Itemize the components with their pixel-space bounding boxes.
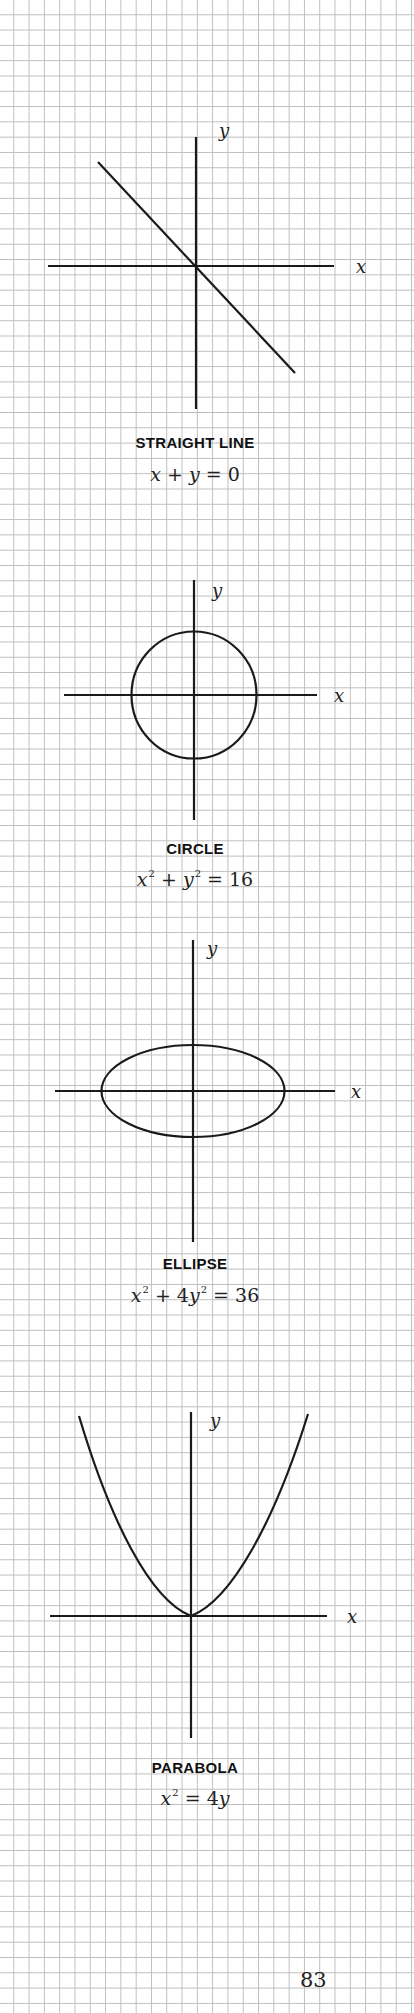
exponent: 2	[201, 1284, 207, 1295]
exponent: 2	[172, 1787, 178, 1798]
coefficient: 4	[207, 1787, 219, 1809]
circle-title: CIRCLE	[0, 840, 390, 857]
x-axis-label: x	[347, 1606, 357, 1627]
parabola-graph: y x	[50, 1410, 357, 1738]
circle-equation: x2 + y2 = 16	[0, 868, 390, 890]
x-axis-label: x	[356, 256, 366, 277]
var-x: x	[131, 1284, 142, 1306]
x-axis-label: x	[334, 685, 344, 706]
straight-line-graph: y x	[48, 120, 366, 409]
var-y: y	[183, 868, 194, 890]
var-y: y	[189, 463, 200, 485]
var-y: y	[189, 1284, 200, 1306]
page-number: 83	[300, 1968, 327, 1992]
ellipse-title: ELLIPSE	[0, 1255, 390, 1272]
parabola-title: PARABOLA	[0, 1759, 390, 1776]
plus-sign: +	[167, 463, 183, 485]
y-axis-label: y	[211, 580, 223, 601]
coefficient: 4	[177, 1284, 189, 1306]
var-y: y	[219, 1787, 230, 1809]
exponent: 2	[142, 1284, 148, 1295]
x-axis-label: x	[351, 1081, 361, 1102]
plus-sign: +	[155, 1284, 171, 1306]
exponent: 2	[195, 868, 201, 879]
y-axis-label: y	[209, 1410, 221, 1431]
straight-line-title: STRAIGHT LINE	[0, 434, 390, 451]
straight-line-equation: x + y = 0	[0, 463, 390, 485]
ellipse-graph: y x	[55, 938, 361, 1242]
var-x: x	[161, 1787, 172, 1809]
circle-graph: y x	[64, 580, 344, 820]
equals-sign: =	[213, 1284, 229, 1306]
var-x: x	[150, 463, 161, 485]
rhs-value: 0	[228, 463, 240, 485]
parabola-curve	[79, 1414, 308, 1616]
conic-sections-figure: y x y x y x y x	[0, 0, 414, 2013]
ellipse-equation: x2 + 4y2 = 36	[0, 1284, 390, 1306]
y-axis-label: y	[218, 120, 230, 141]
parabola-equation: x2 = 4y	[0, 1787, 390, 1809]
equals-sign: =	[185, 1787, 201, 1809]
equals-sign: =	[207, 868, 223, 890]
rhs-value: 36	[235, 1284, 259, 1306]
equals-sign: =	[206, 463, 222, 485]
var-x: x	[137, 868, 148, 890]
plus-sign: +	[161, 868, 177, 890]
exponent: 2	[149, 868, 155, 879]
y-axis-label: y	[206, 938, 218, 959]
rhs-value: 16	[229, 868, 253, 890]
